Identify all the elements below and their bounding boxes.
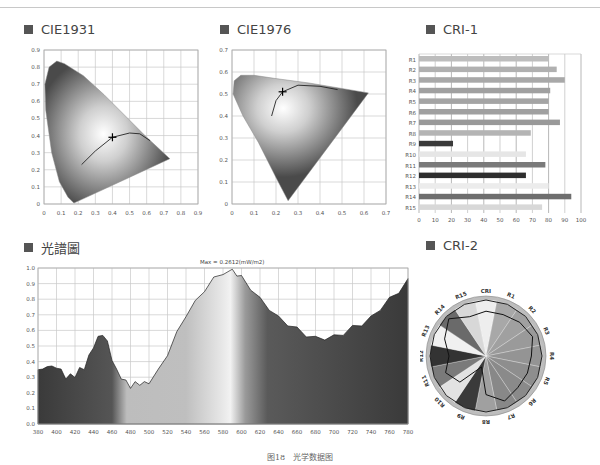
spectrum-chart: 0.00.10.20.30.40.50.60.70.80.91.03804004… bbox=[20, 254, 420, 446]
svg-text:0: 0 bbox=[225, 201, 229, 207]
svg-text:R8: R8 bbox=[482, 418, 490, 424]
svg-text:680: 680 bbox=[310, 429, 321, 435]
svg-text:560: 560 bbox=[199, 429, 210, 435]
svg-text:10: 10 bbox=[432, 217, 439, 223]
cri1-bar bbox=[419, 141, 453, 147]
cri1-bar bbox=[419, 88, 550, 94]
cri1-chart: 0102030405060708090100R1R2R3R4R5R6R7R8R9… bbox=[400, 50, 592, 230]
svg-text:0.3: 0.3 bbox=[91, 210, 100, 216]
svg-text:0.5: 0.5 bbox=[26, 343, 35, 349]
svg-text:R7: R7 bbox=[409, 120, 417, 126]
svg-text:520: 520 bbox=[162, 429, 173, 435]
svg-text:0.3: 0.3 bbox=[294, 210, 303, 216]
svg-text:720: 720 bbox=[347, 429, 358, 435]
svg-text:R3: R3 bbox=[409, 78, 417, 84]
svg-text:R5: R5 bbox=[542, 376, 551, 386]
svg-text:R15: R15 bbox=[454, 290, 467, 300]
svg-text:0.4: 0.4 bbox=[316, 210, 325, 216]
svg-text:0.7: 0.7 bbox=[26, 312, 35, 318]
svg-text:620: 620 bbox=[255, 429, 266, 435]
figure-caption: 图18 光学数据图 bbox=[0, 451, 600, 462]
svg-text:0.2: 0.2 bbox=[26, 390, 35, 396]
svg-text:60: 60 bbox=[513, 217, 520, 223]
cie1976-chart: 00.10.20.30.40.50.60.700.10.20.30.40.50.… bbox=[216, 44, 396, 226]
svg-text:0.9: 0.9 bbox=[26, 281, 35, 287]
svg-text:R13: R13 bbox=[405, 184, 416, 190]
svg-text:0.8: 0.8 bbox=[26, 296, 35, 302]
cri1-bar bbox=[419, 173, 526, 179]
svg-text:90: 90 bbox=[561, 217, 568, 223]
svg-text:R7: R7 bbox=[506, 412, 516, 421]
svg-text:0.1: 0.1 bbox=[219, 179, 228, 185]
svg-text:R6: R6 bbox=[527, 397, 537, 407]
svg-text:0.5: 0.5 bbox=[338, 210, 347, 216]
top-divider bbox=[0, 7, 600, 8]
svg-text:R9: R9 bbox=[456, 412, 466, 421]
svg-text:R2: R2 bbox=[527, 305, 537, 315]
svg-text:0.1: 0.1 bbox=[250, 210, 259, 216]
svg-text:0.2: 0.2 bbox=[219, 157, 228, 163]
svg-text:R3: R3 bbox=[542, 326, 551, 336]
svg-text:0: 0 bbox=[37, 201, 41, 207]
svg-text:0.7: 0.7 bbox=[31, 81, 40, 87]
svg-text:0.3: 0.3 bbox=[26, 374, 35, 380]
cri2-title-text: CRI-2 bbox=[443, 238, 478, 253]
svg-text:0.8: 0.8 bbox=[31, 64, 40, 70]
svg-text:R12: R12 bbox=[420, 350, 424, 362]
gamut-area bbox=[45, 61, 170, 203]
cri2-title: CRI-2 bbox=[426, 238, 478, 253]
svg-text:780: 780 bbox=[403, 429, 414, 435]
svg-text:100: 100 bbox=[576, 217, 587, 223]
svg-text:0.6: 0.6 bbox=[360, 210, 369, 216]
cri1-title-text: CRI-1 bbox=[443, 22, 478, 37]
svg-text:0.3: 0.3 bbox=[31, 150, 40, 156]
cri1-bar bbox=[419, 109, 549, 115]
cri1-title: CRI-1 bbox=[426, 22, 478, 37]
svg-text:R2: R2 bbox=[409, 67, 416, 73]
svg-text:480: 480 bbox=[125, 429, 136, 435]
svg-text:0.2: 0.2 bbox=[74, 210, 83, 216]
svg-text:R14: R14 bbox=[405, 194, 416, 200]
svg-text:R6: R6 bbox=[409, 110, 417, 116]
svg-text:R12: R12 bbox=[405, 173, 416, 179]
svg-text:R11: R11 bbox=[420, 374, 430, 387]
cri1-bar bbox=[419, 77, 565, 83]
title-square-icon bbox=[426, 241, 435, 250]
svg-text:0.4: 0.4 bbox=[31, 133, 40, 139]
cri1-bar bbox=[419, 56, 549, 62]
cri1-bar bbox=[419, 204, 542, 210]
svg-text:0.6: 0.6 bbox=[219, 69, 228, 75]
svg-text:0.3: 0.3 bbox=[219, 135, 228, 141]
cri1-bar bbox=[419, 151, 526, 157]
title-square-icon bbox=[220, 25, 229, 34]
svg-text:80: 80 bbox=[545, 217, 552, 223]
svg-text:0.6: 0.6 bbox=[142, 210, 151, 216]
svg-text:0.2: 0.2 bbox=[272, 210, 281, 216]
title-square-icon bbox=[24, 25, 33, 34]
svg-text:0: 0 bbox=[230, 210, 234, 216]
title-square-icon bbox=[24, 243, 33, 252]
svg-text:R13: R13 bbox=[420, 324, 430, 337]
cri1-bar bbox=[419, 194, 571, 200]
cie1976-title: CIE1976 bbox=[220, 22, 291, 37]
svg-text:R5: R5 bbox=[409, 99, 417, 105]
svg-text:400: 400 bbox=[51, 429, 62, 435]
svg-text:0.1: 0.1 bbox=[26, 405, 35, 411]
svg-text:0.5: 0.5 bbox=[31, 115, 40, 121]
svg-text:0.1: 0.1 bbox=[57, 210, 66, 216]
svg-text:0.5: 0.5 bbox=[219, 91, 228, 97]
svg-text:580: 580 bbox=[218, 429, 229, 435]
cri1-bar bbox=[419, 120, 560, 126]
svg-text:R8: R8 bbox=[409, 131, 417, 137]
title-square-icon bbox=[426, 25, 435, 34]
svg-text:0.0: 0.0 bbox=[26, 421, 35, 427]
svg-text:1.0: 1.0 bbox=[26, 265, 35, 271]
svg-text:420: 420 bbox=[70, 429, 81, 435]
svg-text:0.2: 0.2 bbox=[31, 167, 40, 173]
svg-text:760: 760 bbox=[384, 429, 395, 435]
svg-text:R11: R11 bbox=[405, 163, 416, 169]
svg-text:CRI: CRI bbox=[481, 288, 491, 294]
svg-text:0: 0 bbox=[417, 217, 421, 223]
svg-text:0.7: 0.7 bbox=[159, 210, 168, 216]
svg-text:0.5: 0.5 bbox=[125, 210, 134, 216]
